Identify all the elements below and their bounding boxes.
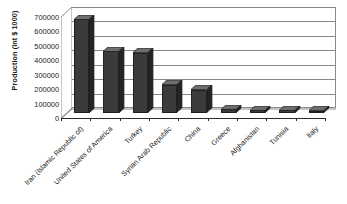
bar-chart: Production (Int $ 1000) 7000006000005000…: [0, 0, 347, 204]
x-axis-category-labels: Iran (Islamic Republic of)United States …: [0, 0, 347, 204]
